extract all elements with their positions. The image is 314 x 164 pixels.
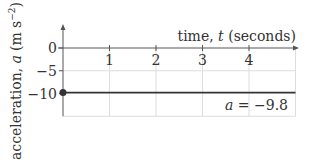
line-annotation: a = −9.8	[225, 97, 288, 113]
x-tick-label: 1	[105, 52, 114, 68]
y-axis-label: acceleration, a(m s−2)	[7, 2, 24, 160]
acceleration-time-chart: 12340−5−10 time, t (seconds) acceleratio…	[0, 0, 314, 164]
y-tick-label: −10	[27, 86, 57, 102]
y-tick-label: 0	[48, 40, 57, 56]
y-tick-label: −5	[36, 63, 57, 79]
x-tick-label: 4	[245, 52, 254, 68]
x-axis-label: time, t (seconds)	[178, 28, 297, 44]
series	[60, 89, 296, 96]
x-tick-label: 2	[152, 52, 161, 68]
y-axis-arrow-icon	[61, 24, 66, 30]
series-start-point	[60, 89, 67, 96]
x-tick-label: 3	[198, 52, 207, 68]
